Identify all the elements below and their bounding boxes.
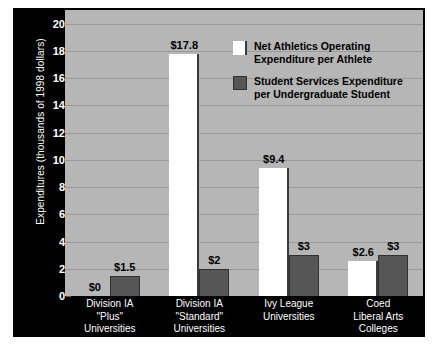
y-axis-tick-label: 10 [53,154,65,166]
legend-item[interactable]: Student Services Expenditureper Undergra… [233,75,419,101]
bar [110,276,140,296]
legend-item-label: Net Athletics OperatingExpenditure per A… [254,40,372,66]
legend-item-label: Student Services Expenditureper Undergra… [254,75,403,101]
legend-item[interactable]: Net Athletics OperatingExpenditure per A… [233,40,419,66]
x-axis-category-label: Ivy League Universities [244,298,334,323]
gridline [65,242,423,243]
y-axis-tick-label: 20 [53,18,65,30]
y-axis-tick-label: 16 [53,72,65,84]
gridline [65,24,423,25]
gridline [65,214,423,215]
x-axis-category-label: Division IA "Standard" Universities [155,298,245,336]
gridline [65,160,423,161]
chart-figure: Expenditures (thousands of 1998 dollars)… [13,8,425,337]
chart-legend: Net Athletics OperatingExpenditure per A… [233,40,419,110]
bar-value-label: $1.5 [103,261,147,273]
x-axis-category-label: Coed Liberal Arts Colleges [334,298,424,336]
plot-area: $0$1.5$17.8$2$9.4$3$2.6$3 Net Athletics … [65,10,423,296]
y-axis-tick-label: 14 [53,99,65,111]
x-axis-category-labels: Division IA "Plus" UniversitiesDivision … [65,298,423,337]
bar [259,168,289,296]
bar-value-label: $17.8 [162,39,206,51]
bar-value-label: $3 [282,240,326,252]
bar-value-label: $2 [192,254,236,266]
bar [289,255,319,296]
legend-swatch-icon [233,41,247,55]
bar-value-label: $9.4 [252,153,296,165]
gridline [65,133,423,134]
bar [378,255,408,296]
x-axis-category-label: Division IA "Plus" Universities [65,298,155,336]
y-axis-tick-label: 12 [53,127,65,139]
bar-value-label: $3 [371,240,415,252]
y-axis-tick-label: 18 [53,45,65,57]
bar [199,269,229,296]
legend-swatch-icon [233,76,247,90]
bar [348,261,378,296]
gridline [65,187,423,188]
